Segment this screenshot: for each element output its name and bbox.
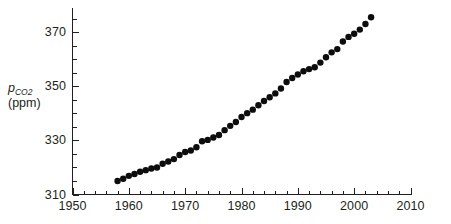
y-tick-label: 370 [40,26,66,39]
data-point [362,21,368,27]
x-tick-label: 1950 [58,200,86,213]
x-axis-ticks [74,188,412,195]
data-point [120,176,126,182]
plot-area [0,0,451,224]
data-point [351,30,357,36]
data-point [114,178,120,184]
data-point [199,138,205,144]
x-tick-label: 2010 [396,200,424,213]
data-point [210,134,216,140]
data-point [182,149,188,155]
x-tick-label: 1980 [227,200,255,213]
data-point [272,90,278,96]
data-point [205,137,211,143]
data-point [131,171,137,177]
data-point [154,164,160,170]
data-point [148,165,154,171]
data-point [126,173,132,179]
data-point [255,102,261,108]
data-point [137,169,143,175]
data-point [295,71,301,77]
x-tick-label: 1990 [284,200,312,213]
data-point [171,156,177,162]
data-point [227,123,233,129]
data-point [250,106,256,112]
y-tick-label: 350 [40,80,66,93]
x-tick-label: 1970 [171,200,199,213]
data-point [317,59,323,65]
data-point [306,66,312,72]
data-point [283,79,289,85]
data-point [357,26,363,32]
y-tick-label: 330 [40,134,66,147]
data-point [278,85,284,91]
data-point [345,34,351,40]
data-point [334,46,340,52]
x-tick-label: 2000 [340,200,368,213]
data-point [159,160,165,166]
x-tick-label: 1960 [115,200,143,213]
y-axis-ticks [73,20,80,196]
data-point [188,147,194,153]
axes [73,8,411,195]
data-point [323,54,329,60]
data-point [261,98,267,104]
data-point [289,75,295,81]
data-point [340,38,346,44]
y-tick-label: 310 [40,188,66,201]
data-point [143,167,149,173]
data-point-group [114,14,374,184]
data-point [244,110,250,116]
data-point [266,94,272,100]
data-point [312,64,318,70]
data-point [176,152,182,158]
data-point [233,119,239,125]
data-point [165,158,171,164]
data-point [221,127,227,133]
data-point [328,49,334,55]
data-point [368,14,374,20]
data-point [193,144,199,150]
data-point [216,132,222,138]
co2-concentration-chart: pCO2 (ppm) 1950196019701980199020002010 … [0,0,451,224]
data-point [300,68,306,74]
data-point [238,114,244,120]
